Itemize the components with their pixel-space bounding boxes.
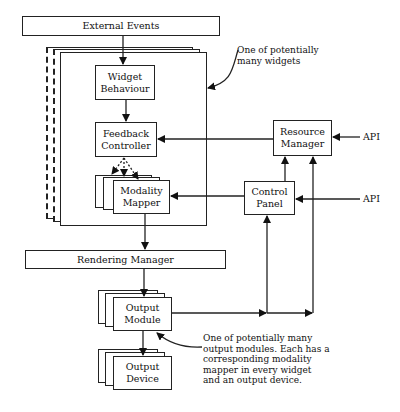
diagram-canvas: External Events Widget Behaviour Feedbac… <box>0 0 400 412</box>
widget-annotation-pointer <box>208 50 238 88</box>
output-annotation-pointer <box>157 333 202 347</box>
connectors <box>0 0 400 412</box>
